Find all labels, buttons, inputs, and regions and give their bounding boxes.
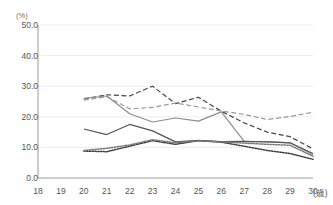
line-chart: (%) 0.010.020.030.040.050.0 181920212223… <box>0 0 333 205</box>
x-axis-tick: 19 <box>56 186 65 196</box>
x-axis-tick: 27 <box>240 186 249 196</box>
x-axis-tick: 26 <box>217 186 226 196</box>
x-axis-tick: 28 <box>262 186 271 196</box>
y-axis-tick-labels: 0.010.020.030.040.050.0 <box>4 0 38 205</box>
series-line-5 <box>84 141 313 160</box>
x-axis-tick: 25 <box>194 186 203 196</box>
series-line-2 <box>84 97 313 120</box>
y-axis-tick: 20.0 <box>4 112 38 122</box>
plot-area <box>0 0 333 205</box>
x-axis-tick: 24 <box>171 186 180 196</box>
x-axis-tick: 18 <box>33 186 42 196</box>
y-axis-tick: 30.0 <box>4 81 38 91</box>
y-axis-tick: 50.0 <box>4 20 38 30</box>
y-axis-tick: 40.0 <box>4 51 38 61</box>
y-axis-tick: 0.0 <box>4 173 38 183</box>
x-axis-tick: 23 <box>148 186 157 196</box>
gridlines <box>38 25 313 178</box>
y-axis-tick: 10.0 <box>4 142 38 152</box>
x-axis-tick: 21 <box>102 186 111 196</box>
series-lines <box>84 86 313 159</box>
x-axis-unit-label: (歳) <box>313 186 328 198</box>
x-axis-tick: 20 <box>79 186 88 196</box>
x-axis-tick: 29 <box>285 186 294 196</box>
x-axis-tick: 22 <box>125 186 134 196</box>
